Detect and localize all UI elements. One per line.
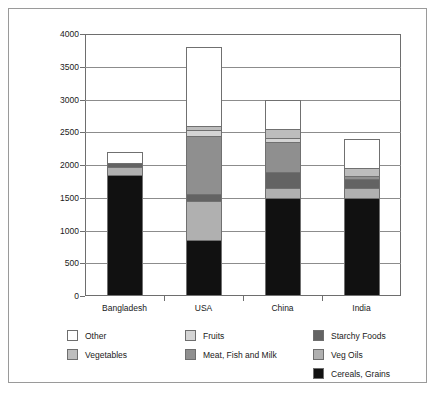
bar-segment-other[interactable] — [107, 152, 143, 163]
bar-india[interactable] — [344, 139, 380, 296]
legend-item-meat-fish-and-milk[interactable]: Meat, Fish and Milk — [185, 346, 277, 363]
legend-label: Veg Oils — [331, 350, 363, 360]
y-tick-mark — [80, 263, 85, 264]
y-tick-label: 3500 — [60, 62, 79, 72]
y-tick-mark — [80, 231, 85, 232]
y-tick-label: 1000 — [60, 226, 79, 236]
legend-label: Other — [85, 331, 106, 341]
legend-swatch — [185, 330, 196, 341]
bar-segment-starchy-foods[interactable] — [265, 172, 301, 188]
bar-segment-other[interactable] — [186, 47, 222, 126]
x-tick-label: Bangladesh — [102, 303, 147, 313]
legend-swatch — [185, 349, 196, 360]
legend-label: Fruits — [203, 331, 224, 341]
y-tick-label: 1500 — [60, 193, 79, 203]
legend-swatch — [313, 330, 324, 341]
bar-segment-cereals-grains[interactable] — [265, 198, 301, 296]
y-tick-mark — [80, 34, 85, 35]
y-tick-label: 3000 — [60, 95, 79, 105]
legend-item-cereals-grains[interactable]: Cereals, Grains — [313, 365, 390, 382]
bar-segment-meat-fish-and-milk[interactable] — [186, 136, 222, 195]
x-tick-mark — [243, 296, 244, 301]
bar-segment-cereals-grains[interactable] — [186, 240, 222, 296]
y-tick-mark — [80, 198, 85, 199]
legend-swatch — [313, 368, 324, 379]
bar-segment-veg-oils[interactable] — [107, 167, 143, 175]
bar-bangladesh[interactable] — [107, 152, 143, 296]
y-tick-mark — [80, 67, 85, 68]
bar-segment-cereals-grains[interactable] — [344, 198, 380, 296]
x-tick-mark — [164, 296, 165, 301]
gridline — [85, 100, 401, 101]
legend-item-other[interactable]: Other — [67, 327, 127, 344]
bar-segment-vegetables[interactable] — [344, 168, 380, 176]
y-tick-label: 2000 — [60, 160, 79, 170]
legend-item-veg-oils[interactable]: Veg Oils — [313, 346, 390, 363]
chart-figure: 05001000150020002500300035004000 Banglad… — [8, 8, 427, 383]
legend-label: Vegetables — [85, 350, 127, 360]
legend-swatch — [313, 349, 324, 360]
y-tick-mark — [80, 165, 85, 166]
legend-label: Starchy Foods — [331, 331, 386, 341]
y-tick-mark — [80, 132, 85, 133]
legend-item-vegetables[interactable]: Vegetables — [67, 346, 127, 363]
bar-segment-meat-fish-and-milk[interactable] — [265, 142, 301, 171]
legend-column: Starchy FoodsVeg OilsCereals, Grains — [313, 327, 390, 384]
bar-usa[interactable] — [186, 47, 222, 296]
legend-swatch — [67, 330, 78, 341]
y-tick-mark — [80, 296, 85, 297]
legend-column: FruitsMeat, Fish and Milk — [185, 327, 277, 365]
y-tick-label: 4000 — [60, 29, 79, 39]
chart-legend: OtherVegetablesFruitsMeat, Fish and Milk… — [67, 327, 397, 375]
legend-column: OtherVegetables — [67, 327, 127, 365]
x-tick-label: India — [352, 303, 370, 313]
bar-china[interactable] — [265, 100, 301, 296]
legend-item-starchy-foods[interactable]: Starchy Foods — [313, 327, 390, 344]
y-tick-label: 0 — [74, 291, 79, 301]
legend-swatch — [67, 349, 78, 360]
y-tick-label: 2500 — [60, 127, 79, 137]
bar-segment-veg-oils[interactable] — [265, 188, 301, 198]
bar-segment-veg-oils[interactable] — [344, 188, 380, 198]
bar-segment-starchy-foods[interactable] — [344, 179, 380, 188]
legend-label: Cereals, Grains — [331, 369, 390, 379]
gridline — [85, 132, 401, 133]
y-tick-mark — [80, 100, 85, 101]
x-tick-label: China — [271, 303, 293, 313]
legend-item-fruits[interactable]: Fruits — [185, 327, 277, 344]
y-tick-label: 500 — [65, 258, 79, 268]
bar-segment-cereals-grains[interactable] — [107, 175, 143, 296]
bar-segment-other[interactable] — [344, 139, 380, 168]
plot-area: 05001000150020002500300035004000 Banglad… — [85, 34, 401, 296]
x-tick-mark — [322, 296, 323, 301]
x-tick-label: USA — [195, 303, 212, 313]
bar-segment-veg-oils[interactable] — [186, 201, 222, 240]
bar-segment-other[interactable] — [265, 100, 301, 129]
gridline — [85, 67, 401, 68]
legend-label: Meat, Fish and Milk — [203, 350, 277, 360]
bar-segment-vegetables[interactable] — [265, 129, 301, 138]
